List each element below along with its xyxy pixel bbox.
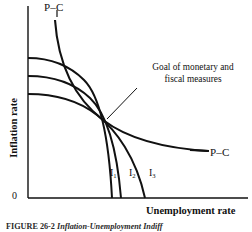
indifference-curve-i3 xyxy=(28,94,145,198)
figure-caption-number: FIGURE 26-2 xyxy=(6,222,55,231)
goal-annotation: Goal of monetary and fiscal measures xyxy=(135,62,251,85)
indifference-label-i2-sub: 2 xyxy=(132,172,135,179)
goal-annotation-line-2: fiscal measures xyxy=(135,74,251,86)
phillips-curve xyxy=(55,20,209,151)
y-axis-title: Inflation rate xyxy=(8,92,20,164)
pc-right-label-connector xyxy=(190,150,208,151)
figure-container: P–C P–C Goal of monetary and fiscal meas… xyxy=(0,0,252,232)
indifference-label-i2: I2 xyxy=(129,167,136,178)
phillips-curve-right-label: P–C xyxy=(210,146,230,158)
figure-caption-title: Inflation-Unemployment Indiff xyxy=(57,222,163,231)
phillips-curve-top-label: P–C xyxy=(44,1,64,13)
figure-caption: FIGURE 26-2 Inflation-Unemployment Indif… xyxy=(6,222,252,232)
x-axis-title: Unemployment rate xyxy=(146,205,236,217)
indifference-label-i1-sub: 1 xyxy=(113,172,116,179)
goal-annotation-line-1: Goal of monetary and xyxy=(135,62,251,74)
indifference-label-i3: I3 xyxy=(149,167,156,178)
origin-label: 0 xyxy=(12,190,17,201)
indifference-label-i1: I1 xyxy=(110,167,117,178)
indifference-label-i3-sub: 3 xyxy=(152,172,155,179)
annotation-leader-line xyxy=(107,88,137,119)
phillips-curve-plot xyxy=(0,0,252,232)
